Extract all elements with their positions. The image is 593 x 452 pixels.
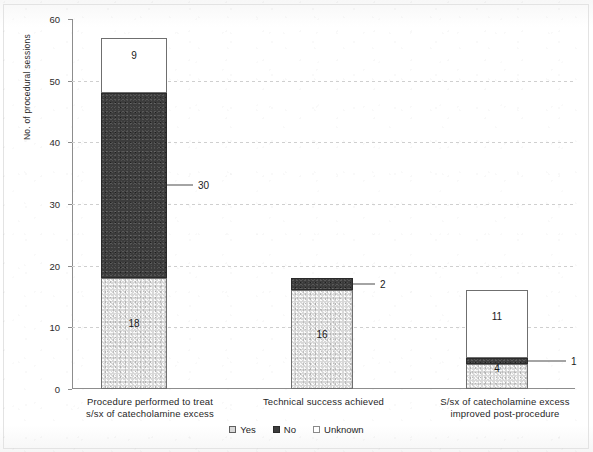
bar0-segment-unknown[interactable] [101,38,167,93]
y-tick-mark-0 [68,389,72,390]
y-tick-mark-30 [68,204,72,205]
chart-legend: Yes No Unknown [0,424,593,435]
plot-area: 18 9 30 16 2 [72,19,575,389]
legend-item-no[interactable]: No [273,424,296,435]
category-label-2-line-1: improved post-procedure [416,408,593,420]
y-tick-mark-20 [68,266,72,267]
y-tick-20: 20 [49,260,60,271]
y-tick-50: 50 [49,75,60,86]
y-tick-mark-10 [68,327,72,328]
legend-swatch-no-icon [273,426,280,433]
legend-item-unknown[interactable]: Unknown [313,424,364,435]
x-axis-category-labels: Procedure performed to treat s/sx of cat… [72,394,575,428]
leader-line [353,284,375,285]
figure-page: No. of procedural sessions 60 50 40 30 2… [0,0,593,452]
bar0-segment-no[interactable] [101,93,167,278]
bar0-segment-yes[interactable] [101,278,167,389]
bar-ssx-improved[interactable]: 4 11 [466,290,528,389]
stacked-bar-chart: No. of procedural sessions 60 50 40 30 2… [0,0,593,452]
y-tick-60: 60 [49,14,60,25]
y-tick-mark-40 [68,142,72,143]
y-tick-40: 40 [49,137,60,148]
bar1-label-yes: 16 [291,329,353,340]
category-label-1: Technical success achieved [246,396,401,408]
category-label-2-line-0: S/sx of catecholamine excess [416,396,593,408]
y-tick-mark-60 [68,19,72,20]
bar-technical-success[interactable]: 16 [291,278,353,389]
bar0-label-yes: 18 [101,318,167,329]
bar1-segment-yes[interactable] [291,290,353,389]
legend-item-yes[interactable]: Yes [229,424,256,435]
bar2-label-yes: 4 [466,363,528,374]
y-axis-tick-labels: 60 50 40 30 20 10 0 [0,19,68,389]
category-label-0: Procedure performed to treat s/sx of cat… [60,396,240,420]
category-label-1-line-0: Technical success achieved [246,396,401,408]
bar0-label-unknown: 9 [101,50,167,61]
legend-label-yes: Yes [240,424,256,435]
legend-swatch-unknown-icon [313,426,320,433]
legend-swatch-yes-icon [229,426,236,433]
legend-label-no: No [284,424,296,435]
bar-procedure-performed[interactable]: 18 9 [101,38,167,389]
leader-line [528,361,566,362]
y-tick-10: 10 [49,322,60,333]
legend-label-unknown: Unknown [324,424,364,435]
bar1-callout-no-value: 2 [380,279,386,290]
bar0-callout-no: 30 [167,180,209,191]
category-label-0-line-0: Procedure performed to treat [60,396,240,408]
bar1-callout-no: 2 [353,279,386,290]
y-tick-mark-50 [68,81,72,82]
leader-line [167,185,193,186]
bar0-callout-no-value: 30 [198,180,209,191]
bar1-segment-no[interactable] [291,278,353,290]
bar2-segment-unknown[interactable] [466,290,528,358]
bar2-label-unknown: 11 [466,311,528,322]
category-label-2: S/sx of catecholamine excess improved po… [416,396,593,420]
y-tick-30: 30 [49,199,60,210]
bar2-callout-no-value: 1 [571,356,577,367]
bar2-callout-no: 1 [528,356,577,367]
category-label-0-line-1: s/sx of catecholamine excess [60,408,240,420]
y-tick-0: 0 [55,384,60,395]
